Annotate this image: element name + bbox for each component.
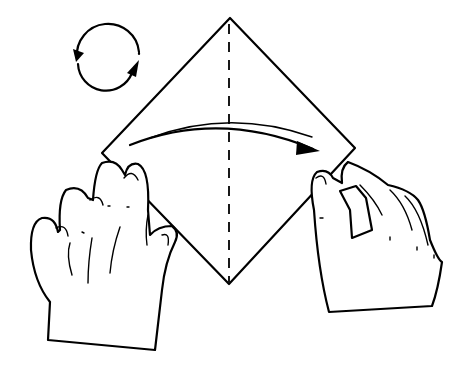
rotate-icon: [73, 24, 139, 91]
curved-arrow-right-icon: [130, 123, 320, 155]
right-hand: [312, 162, 442, 312]
illustration-canvas: [0, 0, 457, 371]
origami-illustration: Origami folding step: [0, 0, 457, 371]
left-hand: [31, 162, 177, 350]
